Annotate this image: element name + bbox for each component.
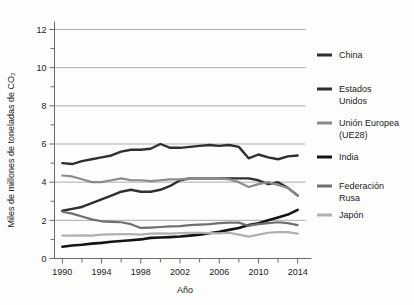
legend-label: Rusa: [339, 193, 360, 203]
y-tick-label: 8: [41, 101, 46, 111]
legend-label: Estados: [339, 84, 372, 94]
legend-label: India: [339, 152, 359, 162]
x-tick-label: 2014: [288, 267, 308, 277]
x-axis-title: Año: [177, 285, 193, 295]
legend-label: Federación: [339, 181, 384, 191]
legend-label: Unión Europea: [339, 118, 399, 128]
legend-label: China: [339, 50, 363, 60]
x-tick-label: 1998: [131, 267, 151, 277]
chart-figure: 024681012 1990199419982002200620102014 M…: [0, 0, 414, 305]
x-tick-label: 2006: [209, 267, 229, 277]
legend-label: Unidos: [339, 96, 368, 106]
y-tick-label: 4: [41, 177, 46, 187]
co2-emissions-line-chart: 024681012 1990199419982002200620102014 M…: [0, 0, 414, 305]
y-tick-label: 6: [41, 139, 46, 149]
x-tick-label: 1990: [52, 267, 72, 277]
y-tick-label: 10: [36, 63, 46, 73]
x-tick-label: 2002: [170, 267, 190, 277]
y-tick-label: 0: [41, 254, 46, 264]
y-axis-title: Miles de millones de toneladas de CO₂: [6, 72, 16, 228]
x-tick-label: 2010: [248, 267, 268, 277]
y-tick-label: 12: [36, 25, 46, 35]
x-tick-label: 1994: [92, 267, 112, 277]
y-tick-label: 2: [41, 216, 46, 226]
legend-label: (UE28): [339, 130, 368, 140]
legend-label: Japón: [339, 210, 364, 220]
